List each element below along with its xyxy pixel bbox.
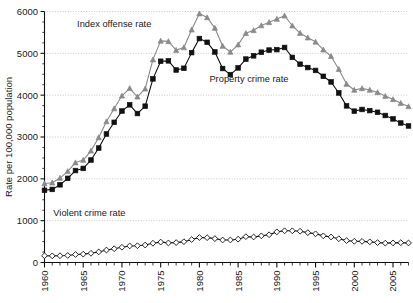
data-point-diamond	[251, 234, 257, 240]
x-tick-label: 1960	[39, 271, 50, 292]
data-point-square	[282, 45, 287, 50]
data-point-triangle	[220, 43, 225, 48]
data-point-diamond	[135, 243, 141, 249]
data-point-square	[143, 104, 148, 109]
data-point-triangle	[88, 148, 93, 153]
series-label: Property crime rate	[209, 74, 288, 84]
series-line	[45, 14, 409, 184]
data-point-diamond	[42, 253, 48, 259]
data-point-diamond	[166, 240, 172, 246]
data-point-square	[73, 168, 78, 173]
data-point-diamond	[266, 232, 272, 238]
x-tick-label: 1980	[194, 271, 205, 292]
data-point-square	[58, 183, 63, 188]
data-point-diamond	[119, 244, 125, 250]
data-point-diamond	[227, 237, 233, 243]
data-point-triangle	[305, 35, 310, 40]
x-axis-ticks: 1960196519701975198019851990199520002005	[39, 263, 409, 292]
data-point-square	[166, 59, 171, 64]
data-point-diamond	[243, 234, 249, 240]
data-point-square	[251, 54, 256, 59]
data-point-square	[383, 113, 388, 118]
data-point-diamond	[406, 240, 412, 246]
x-tick-label: 1985	[233, 271, 244, 292]
data-point-square	[50, 187, 55, 192]
data-point-square	[120, 109, 125, 114]
series-annotations: Index offense rateProperty crime rateVio…	[53, 19, 288, 218]
y-tick-label: 2000	[17, 173, 38, 184]
data-point-triangle	[143, 86, 148, 91]
data-point-diamond	[375, 240, 381, 246]
data-point-triangle	[189, 27, 194, 32]
data-point-square	[158, 59, 163, 64]
data-point-diamond	[150, 240, 156, 246]
data-point-square	[151, 77, 156, 82]
x-tick-label: 1995	[310, 271, 321, 292]
data-point-square	[290, 55, 295, 60]
data-point-square	[112, 120, 117, 125]
data-point-diamond	[142, 242, 148, 248]
y-tick-label: 0	[33, 257, 38, 268]
data-point-triangle	[127, 86, 132, 91]
data-point-diamond	[289, 228, 295, 234]
y-tick-label: 1000	[17, 215, 38, 226]
data-point-square	[104, 132, 109, 137]
data-point-diamond	[104, 247, 110, 253]
chart-canvas: 0100020003000400050006000196019651970197…	[0, 0, 413, 303]
data-point-diamond	[204, 235, 210, 241]
data-point-diamond	[382, 240, 388, 246]
data-point-diamond	[80, 251, 86, 257]
data-point-diamond	[96, 249, 102, 255]
data-point-square	[220, 66, 225, 71]
data-point-triangle	[383, 93, 388, 98]
data-point-diamond	[297, 228, 303, 234]
data-point-square	[375, 110, 380, 115]
data-point-diamond	[111, 246, 117, 252]
y-axis-ticks: 0100020003000400050006000	[17, 6, 45, 268]
data-point-diamond	[196, 235, 202, 241]
data-point-square	[321, 74, 326, 79]
data-point-diamond	[398, 240, 404, 246]
data-point-diamond	[212, 236, 218, 242]
data-point-square	[135, 111, 140, 116]
data-point-square	[89, 158, 94, 163]
data-point-square	[244, 57, 249, 62]
data-point-square	[275, 47, 280, 52]
series-label: Index offense rate	[77, 19, 151, 29]
data-point-square	[398, 121, 403, 126]
data-point-square	[360, 107, 365, 112]
data-point-diamond	[220, 237, 226, 243]
data-point-square	[42, 188, 47, 193]
series-line	[45, 39, 409, 191]
data-point-triangle	[150, 57, 155, 62]
data-point-diamond	[258, 233, 264, 239]
data-point-triangle	[282, 13, 287, 18]
data-point-diamond	[359, 238, 365, 244]
data-point-triangle	[336, 67, 341, 72]
series-property-crime-rate	[42, 36, 411, 192]
data-point-diamond	[390, 240, 396, 246]
data-point-triangle	[313, 39, 318, 44]
data-point-square	[127, 103, 132, 108]
data-point-square	[236, 66, 241, 71]
crime-rate-chart: 0100020003000400050006000196019651970197…	[0, 0, 413, 303]
data-point-square	[313, 68, 318, 73]
y-tick-label: 3000	[17, 131, 38, 142]
y-axis-title: Rate per 100,000 population	[3, 77, 14, 197]
series-label: Violent crime rate	[53, 208, 125, 218]
data-point-diamond	[73, 252, 79, 258]
data-point-diamond	[173, 240, 179, 246]
data-point-triangle	[251, 28, 256, 33]
data-point-diamond	[328, 234, 334, 240]
data-point-triangle	[359, 86, 364, 91]
data-point-square	[197, 36, 202, 41]
data-point-diamond	[274, 229, 280, 235]
data-point-square	[81, 166, 86, 171]
data-point-diamond	[189, 237, 195, 243]
data-point-diamond	[235, 236, 241, 242]
data-point-diamond	[313, 231, 319, 237]
data-point-diamond	[336, 236, 342, 242]
y-gridlines	[45, 12, 409, 221]
data-point-square	[65, 176, 70, 181]
data-point-square	[336, 91, 341, 96]
